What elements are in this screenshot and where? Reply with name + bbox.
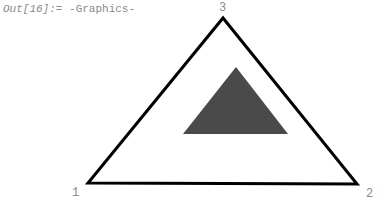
vertex-label-2: 2: [366, 187, 373, 200]
vertex-label-3: 3: [219, 1, 226, 15]
graphics-output: 1 2 3: [0, 0, 386, 200]
vertex-label-1: 1: [72, 186, 79, 200]
